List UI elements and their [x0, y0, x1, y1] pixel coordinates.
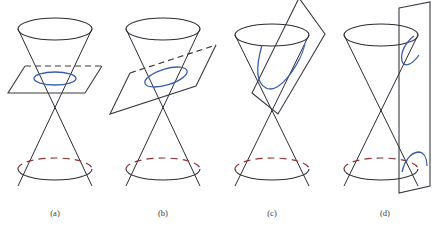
- caption-b: (b): [158, 208, 168, 218]
- caption-d: (d): [380, 208, 390, 218]
- panel-c-parabola: [235, 0, 325, 186]
- panel-a-circle: [8, 18, 102, 186]
- conic-sections-figure: (a) (b) (c) (d): [0, 0, 440, 229]
- figure-canvas: (a) (b) (c) (d): [0, 0, 440, 229]
- upper-cone-rim-b: [126, 18, 200, 40]
- panel-d-hyperbola: [344, 2, 430, 193]
- caption-c: (c): [267, 208, 277, 218]
- lower-cone-rim-front-b: [126, 169, 200, 180]
- lower-cone-rim-front-c: [235, 169, 309, 180]
- upper-cone-rim-a: [18, 18, 92, 40]
- panel-b-ellipse: [110, 18, 216, 186]
- cutting-plane-face-b: [110, 45, 216, 114]
- caption-a: (a): [50, 208, 60, 218]
- lower-cone-rim-front-a: [18, 169, 92, 180]
- cutting-plane-face-d: [399, 2, 430, 193]
